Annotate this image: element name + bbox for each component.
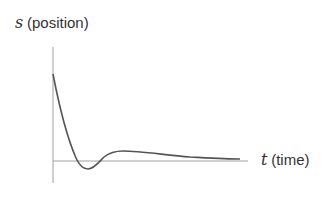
x-axis-description: (time) <box>271 151 309 168</box>
damped-oscillation-chart: s (position) t (time) <box>0 0 323 198</box>
x-axis-variable: t <box>261 150 267 169</box>
y-axis-label: s (position) <box>15 13 89 32</box>
y-axis-description: (position) <box>27 14 89 31</box>
y-axis-variable: s <box>15 13 23 32</box>
position-curve <box>53 74 240 169</box>
x-axis-label: t (time) <box>261 150 310 169</box>
